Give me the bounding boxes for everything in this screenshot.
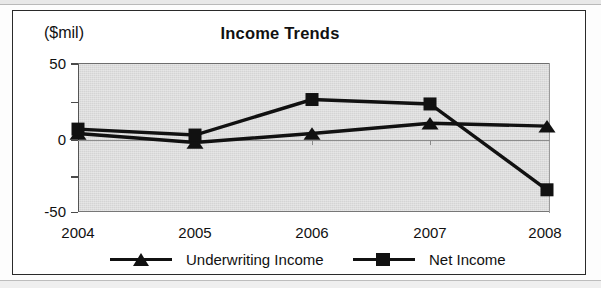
data-point-net-2006 (306, 93, 319, 106)
legend-marker-square-icon (353, 249, 415, 269)
series-line-net-income (78, 100, 547, 190)
legend-marker-triangle-icon (110, 249, 172, 269)
legend-item-underwriting-income: Underwriting Income (110, 249, 324, 269)
series-layer (0, 0, 601, 288)
chart-legend: Underwriting Income Net Income (78, 249, 550, 275)
chart-image: ($mil) Income Trends 50 0 -50 2004 2005 … (0, 0, 601, 288)
legend-label-underwriting-income: Underwriting Income (186, 251, 324, 268)
income-trends-chart: ($mil) Income Trends 50 0 -50 2004 2005 … (0, 0, 601, 288)
data-point-net-2004 (72, 123, 85, 136)
data-point-net-2005 (189, 129, 202, 142)
data-point-net-2008 (541, 183, 554, 196)
legend-item-net-income: Net Income (353, 249, 506, 269)
data-point-net-2007 (424, 97, 437, 110)
legend-label-net-income: Net Income (429, 251, 506, 268)
